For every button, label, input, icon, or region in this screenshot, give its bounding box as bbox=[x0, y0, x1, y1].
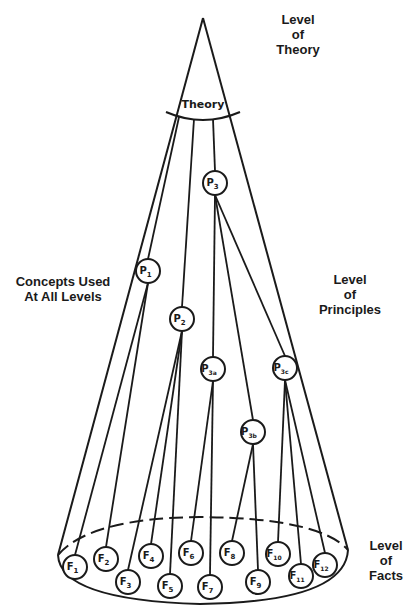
label-line: Level bbox=[300, 272, 400, 287]
node-f12: F12 bbox=[313, 553, 337, 577]
label-line: of bbox=[258, 27, 338, 42]
theory-node-label: Theory bbox=[182, 98, 225, 111]
node-f2: F2 bbox=[94, 547, 118, 571]
edges bbox=[75, 117, 325, 575]
node-f8: F8 bbox=[220, 541, 244, 565]
edge-Theory-P3 bbox=[213, 119, 215, 171]
label-line: Concepts Used bbox=[8, 274, 118, 289]
edge-P3c-F12 bbox=[285, 380, 325, 553]
node-p3c: P3c bbox=[273, 356, 297, 380]
node-p3b: P3b bbox=[241, 420, 265, 444]
edge-Theory-P2 bbox=[182, 119, 194, 307]
principles-level-label: Level of Principles bbox=[300, 272, 400, 317]
edge-P3b-F9 bbox=[253, 444, 258, 570]
edge-P3a-F7 bbox=[210, 381, 213, 575]
edge-P2-F3 bbox=[128, 331, 182, 570]
node-f10: F10 bbox=[266, 542, 290, 566]
node-f1: F1 bbox=[63, 555, 87, 579]
label-line: At All Levels bbox=[8, 289, 118, 304]
edge-Theory-P1 bbox=[148, 117, 179, 259]
label-line: of bbox=[360, 553, 412, 568]
node-p1: P1 bbox=[136, 259, 160, 283]
node-f6: F6 bbox=[179, 541, 203, 565]
label-line: of bbox=[300, 287, 400, 302]
label-line: Principles bbox=[300, 302, 400, 317]
label-line: Theory bbox=[258, 42, 338, 57]
node-f11: F11 bbox=[289, 564, 313, 588]
concepts-label: Concepts Used At All Levels bbox=[8, 274, 118, 304]
node-f4: F4 bbox=[139, 544, 163, 568]
node-f5: F5 bbox=[158, 574, 182, 598]
theory-level-label: Level of Theory bbox=[258, 12, 338, 57]
node-p2: P2 bbox=[170, 307, 194, 331]
facts-level-label: Level of Facts bbox=[360, 538, 412, 583]
edge-P3c-F11 bbox=[285, 380, 301, 564]
edge-P3-P3b bbox=[215, 195, 253, 420]
node-f9: F9 bbox=[246, 570, 270, 594]
node-p3: P3 bbox=[203, 171, 227, 195]
label-line: Level bbox=[360, 538, 412, 553]
node-f3: F3 bbox=[116, 570, 140, 594]
node-f7: F7 bbox=[198, 575, 222, 599]
edge-P3-P3c bbox=[215, 195, 285, 356]
edge-P3-P3a bbox=[213, 195, 215, 357]
label-line: Facts bbox=[360, 568, 412, 583]
edge-P3c-F10 bbox=[278, 380, 285, 542]
node-p3a: P3a bbox=[201, 357, 225, 381]
label-line: Level bbox=[258, 12, 338, 27]
edge-P3b-F8 bbox=[232, 444, 253, 541]
